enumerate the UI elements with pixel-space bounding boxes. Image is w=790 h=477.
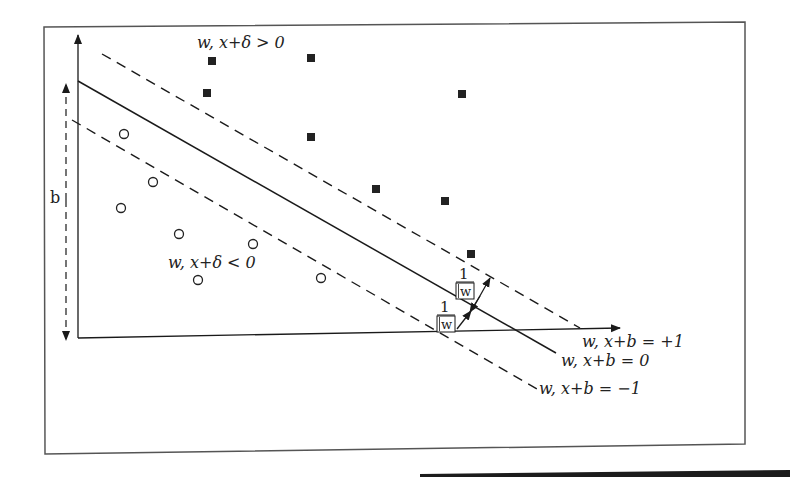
positive-point — [208, 57, 216, 65]
svg-text:w: w — [460, 284, 471, 299]
positive-point — [441, 197, 449, 205]
positive-region-label: w, x+δ > 0 — [197, 33, 285, 52]
margin-fraction-lower: 1 w — [437, 298, 455, 332]
decision-boundary-line — [78, 81, 556, 353]
positive-point — [307, 133, 315, 141]
decision-boundary-label: w, x+b = 0 — [561, 351, 649, 370]
positive-points — [203, 54, 475, 258]
svg-text:1: 1 — [440, 298, 450, 316]
negative-point — [175, 230, 184, 239]
page-edge-shadow — [420, 470, 790, 477]
positive-point — [458, 90, 466, 98]
negative-point — [317, 274, 326, 283]
margin-fraction-upper: 1 w — [456, 265, 474, 299]
svg-text:w: w — [441, 317, 452, 332]
upper-margin-label: w, x+b = +1 — [582, 332, 684, 351]
positive-point — [203, 89, 211, 97]
x-axis — [78, 328, 620, 338]
negative-point — [194, 276, 203, 285]
negative-point — [249, 240, 258, 249]
negative-region-label: w, x+δ < 0 — [168, 253, 256, 272]
upper-margin-line — [102, 54, 580, 328]
bias-label: b — [50, 188, 60, 207]
negative-point — [117, 204, 126, 213]
lower-margin-label: w, x+b = −1 — [539, 379, 641, 398]
positive-point — [467, 250, 475, 258]
negative-point — [149, 178, 158, 187]
svm-diagram: b w, x+δ > 0 w, x+δ < 0 1 w 1 — [0, 0, 790, 477]
positive-point — [307, 54, 315, 62]
margin-arrow-lower — [457, 311, 471, 329]
positive-point — [372, 185, 380, 193]
svg-text:1: 1 — [459, 265, 469, 283]
negative-point — [120, 130, 129, 139]
